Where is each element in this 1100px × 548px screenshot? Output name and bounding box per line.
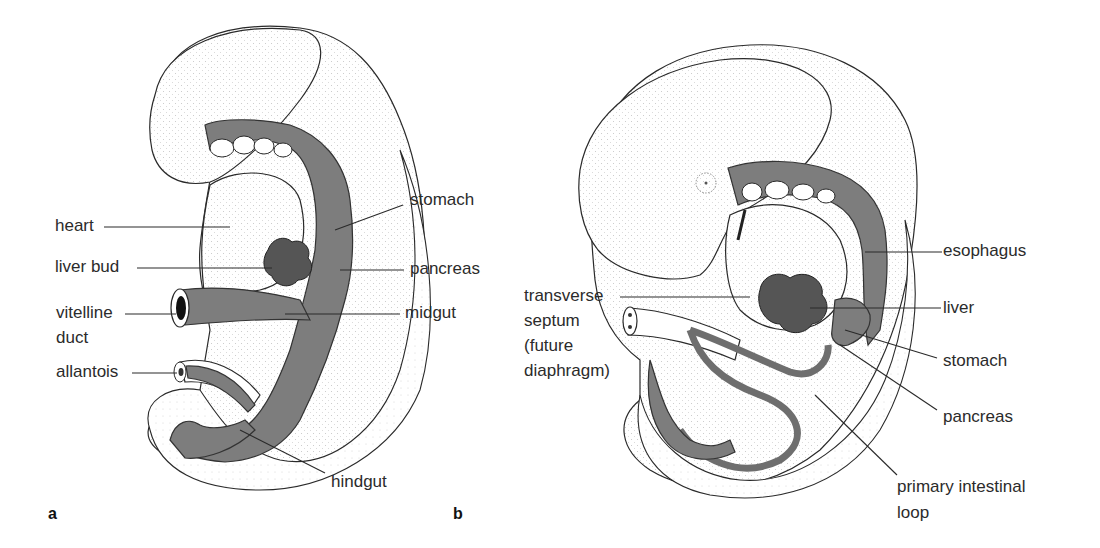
label-transverse-septum-3: (future [524,335,573,357]
label-stomach-b: stomach [943,350,1007,372]
label-liver-bud: liver bud [55,256,119,278]
label-allantois: allantois [56,361,118,383]
panel-letter-b: b [453,505,463,523]
embryo-gut-development-figure: heart liver bud vitelline duct allantois… [0,0,1100,548]
label-vitelline-duct-2: duct [56,327,88,349]
panel-a-embryo [104,26,430,490]
label-liver: liver [943,297,974,319]
label-stomach-a: stomach [410,189,474,211]
label-transverse-septum-2: septum [524,310,580,332]
label-transverse-septum-4: diaphragm) [524,360,610,382]
label-hindgut: hindgut [331,471,387,493]
label-pancreas-b: pancreas [943,406,1013,428]
figure-drawing [0,0,1100,548]
label-esophagus: esophagus [943,240,1026,262]
label-pancreas-a: pancreas [410,258,480,280]
label-primary-intestinal-loop-2: loop [897,502,929,524]
label-transverse-septum: transverse [524,285,603,307]
label-vitelline-duct: vitelline [56,302,113,324]
label-heart: heart [55,215,94,237]
label-primary-intestinal-loop: primary intestinal [897,476,1026,498]
panel-letter-a: a [48,505,57,523]
label-midgut: midgut [405,302,456,324]
panel-b-embryo [579,45,942,498]
